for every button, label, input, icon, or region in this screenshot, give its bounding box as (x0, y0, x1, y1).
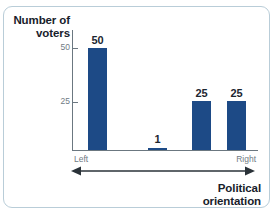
bar-right-inner (192, 101, 211, 150)
bar-left (88, 48, 107, 150)
y-tick-mark-25 (72, 102, 78, 103)
bar-value-center: 1 (142, 133, 173, 145)
bar-center (148, 148, 167, 151)
y-axis-title-line-1: Number of (4, 14, 70, 27)
orientation-arrow-icon (68, 165, 258, 177)
x-tick-label-right: Right (216, 154, 256, 164)
bar-right (227, 101, 246, 150)
bar-value-right-inner: 25 (186, 87, 217, 99)
x-axis-title: Political orientation (150, 182, 261, 208)
bar-value-right: 25 (221, 87, 252, 99)
bar-chart-plot: Number of voters 50 25 50 1 25 25 Left R… (0, 0, 274, 213)
x-axis-line (72, 150, 258, 151)
x-axis-title-line-2: orientation (150, 195, 261, 208)
y-tick-mark-50 (72, 48, 78, 49)
bar-value-left: 50 (82, 34, 113, 46)
y-tick-label-25: 25 (50, 97, 70, 106)
y-axis-title-line-2: voters (4, 27, 70, 40)
x-axis-title-line-1: Political (150, 182, 261, 195)
y-tick-label-50: 50 (50, 43, 70, 52)
y-axis-title: Number of voters (4, 14, 70, 40)
x-tick-label-left: Left (74, 154, 114, 164)
